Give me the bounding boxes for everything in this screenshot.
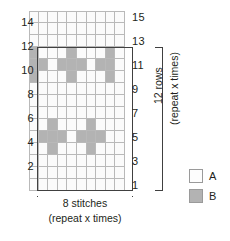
cell-r13-c4 — [58, 35, 68, 47]
grid-row-1 — [29, 179, 125, 191]
cell-r9-c5 — [67, 83, 77, 95]
cell-r4-c10 — [115, 143, 125, 155]
cell-r2-c6 — [77, 167, 87, 179]
cell-r11-c2 — [39, 59, 49, 71]
cell-r15-c3 — [48, 11, 58, 23]
cell-r12-c4 — [58, 47, 68, 59]
cell-r14-c8 — [96, 23, 106, 35]
cell-r11-c10 — [115, 59, 125, 71]
cell-r7-c4 — [58, 107, 68, 119]
cell-r10-c8 — [96, 71, 106, 83]
stitches-repeat-note: (repeat x times) — [20, 212, 150, 224]
cell-r14-c2 — [39, 23, 49, 35]
cell-r15-c2 — [39, 11, 49, 23]
cell-r12-c6 — [77, 47, 87, 59]
cell-r13-c2 — [39, 35, 49, 47]
cell-r14-c10 — [115, 23, 125, 35]
row-label-right-1: 1 — [132, 180, 154, 191]
cell-r1-c7 — [87, 179, 97, 191]
cell-r4-c7 — [87, 143, 97, 155]
cell-r9-c10 — [115, 83, 125, 95]
cell-r3-c8 — [96, 155, 106, 167]
cell-r7-c2 — [39, 107, 49, 119]
cell-r7-c8 — [96, 107, 106, 119]
cell-r15-c7 — [87, 11, 97, 23]
legend-item-a: A — [189, 169, 216, 183]
cell-r14-c7 — [87, 23, 97, 35]
cell-r7-c3 — [48, 107, 58, 119]
cell-r15-c10 — [115, 11, 125, 23]
cell-r4-c6 — [77, 143, 87, 155]
cell-r8-c10 — [115, 95, 125, 107]
cell-r2-c4 — [58, 167, 68, 179]
grid-row-10 — [29, 71, 125, 83]
cell-r5-c8 — [96, 131, 106, 143]
grid-row-11 — [29, 59, 125, 71]
cell-r6-c8 — [96, 119, 106, 131]
cell-r9-c3 — [48, 83, 58, 95]
cell-r6-c5 — [67, 119, 77, 131]
row-label-right-13: 13 — [132, 36, 154, 47]
cell-r2-c8 — [96, 167, 106, 179]
cell-r4-c3 — [48, 143, 58, 155]
cell-r4-c8 — [96, 143, 106, 155]
row-label-left-6: 6 — [12, 113, 34, 124]
cell-r1-c6 — [77, 179, 87, 191]
cell-r12-c5 — [67, 47, 77, 59]
cell-r9-c7 — [87, 83, 97, 95]
cell-r5-c3 — [48, 131, 58, 143]
grid-row-14 — [29, 23, 125, 35]
grid-row-7 — [29, 107, 125, 119]
grid-row-15 — [29, 11, 125, 23]
cell-r9-c6 — [77, 83, 87, 95]
cell-r14-c3 — [48, 23, 58, 35]
cell-r8-c5 — [67, 95, 77, 107]
cell-r10-c6 — [77, 71, 87, 83]
cell-r3-c7 — [87, 155, 97, 167]
cell-r2-c9 — [106, 167, 116, 179]
stitch-grid — [29, 11, 125, 191]
cell-r11-c5 — [67, 59, 77, 71]
cell-r10-c7 — [87, 71, 97, 83]
cell-r4-c9 — [106, 143, 116, 155]
cell-r3-c6 — [77, 155, 87, 167]
legend-item-b: B — [189, 189, 216, 203]
cell-r9-c2 — [39, 83, 49, 95]
row-label-right-7: 7 — [132, 108, 154, 119]
cell-r1-c10 — [115, 179, 125, 191]
grid-row-13 — [29, 35, 125, 47]
cell-r12-c8 — [96, 47, 106, 59]
cell-r3-c2 — [39, 155, 49, 167]
legend-swatch-a-icon — [189, 169, 203, 183]
row-label-right-11: 11 — [132, 60, 154, 71]
cell-r10-c2 — [39, 71, 49, 83]
cell-r5-c9 — [106, 131, 116, 143]
row-label-right-15: 15 — [132, 12, 154, 23]
cell-r12-c7 — [87, 47, 97, 59]
grid-row-8 — [29, 95, 125, 107]
cell-r7-c6 — [77, 107, 87, 119]
cell-r11-c4 — [58, 59, 68, 71]
row-label-left-8: 8 — [12, 89, 34, 100]
cell-r2-c10 — [115, 167, 125, 179]
cell-r13-c8 — [96, 35, 106, 47]
cell-r9-c9 — [106, 83, 116, 95]
cell-r2-c7 — [87, 167, 97, 179]
cell-r1-c9 — [106, 179, 116, 191]
cell-r11-c8 — [96, 59, 106, 71]
grid-row-4 — [29, 143, 125, 155]
cell-r6-c4 — [58, 119, 68, 131]
cell-r14-c6 — [77, 23, 87, 35]
row-label-left-14: 14 — [12, 17, 34, 28]
cell-r11-c9 — [106, 59, 116, 71]
grid-row-3 — [29, 155, 125, 167]
grid-row-2 — [29, 167, 125, 179]
cell-r13-c9 — [106, 35, 116, 47]
cell-r14-c9 — [106, 23, 116, 35]
cell-r9-c4 — [58, 83, 68, 95]
legend: A B — [189, 169, 216, 209]
cell-r13-c6 — [77, 35, 87, 47]
stitches-label: 8 stitches — [37, 197, 133, 209]
cell-r8-c3 — [48, 95, 58, 107]
cell-r10-c9 — [106, 71, 116, 83]
